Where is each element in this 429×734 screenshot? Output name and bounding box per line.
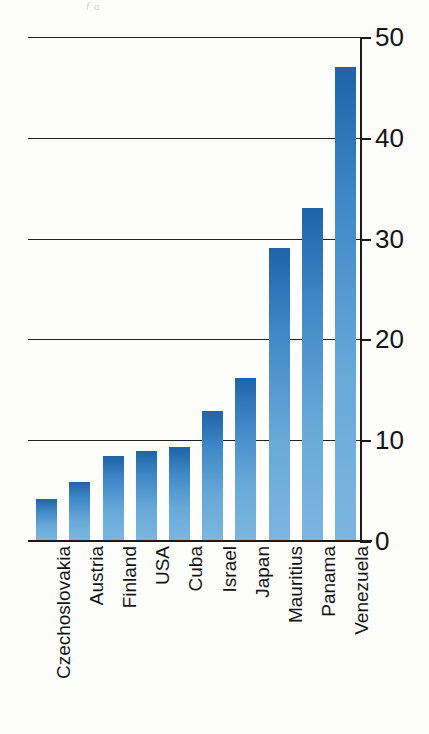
y-tick-mark-30 xyxy=(360,239,371,241)
x-axis-label-panama: Panama xyxy=(319,546,338,617)
bar-czechoslovakia xyxy=(36,499,57,541)
x-axis-label-venezuela: Venezuela xyxy=(352,546,371,635)
plot-area xyxy=(28,37,360,541)
scan-artifact-text: f g xyxy=(86,0,216,10)
x-axis-baseline xyxy=(28,540,372,542)
x-axis-label-usa: USA xyxy=(153,546,172,585)
x-axis-label-finland: Finland xyxy=(120,546,139,608)
x-axis-label-israel: Israel xyxy=(220,546,239,592)
bar-venezuela xyxy=(335,67,356,541)
bar-finland xyxy=(103,456,124,541)
y-tick-label-10: 10 xyxy=(375,427,404,453)
bar-austria xyxy=(69,482,90,541)
y-tick-mark-10 xyxy=(360,440,371,442)
y-tick-label-50: 50 xyxy=(375,24,404,50)
bar-cuba xyxy=(169,447,190,541)
y-tick-mark-40 xyxy=(360,138,371,140)
x-axis-labels: CzechoslovakiaAustriaFinlandUSACubaIsrae… xyxy=(28,546,360,726)
bars-layer xyxy=(28,37,360,541)
y-axis-line xyxy=(360,37,362,542)
x-axis-label-japan: Japan xyxy=(253,546,272,598)
bar-usa xyxy=(136,451,157,541)
x-axis-label-czechoslovakia: Czechoslovakia xyxy=(54,546,73,679)
y-tick-label-40: 40 xyxy=(375,125,404,151)
bar-israel xyxy=(202,411,223,541)
y-tick-mark-20 xyxy=(360,339,371,341)
x-axis-label-austria: Austria xyxy=(87,546,106,605)
y-tick-label-0: 0 xyxy=(375,528,389,554)
bar-panama xyxy=(302,208,323,541)
y-tick-mark-50 xyxy=(360,37,371,39)
y-tick-label-30: 30 xyxy=(375,226,404,252)
bar-mauritius xyxy=(269,248,290,541)
y-tick-label-20: 20 xyxy=(375,326,404,352)
bar-chart: f g 01020304050 CzechoslovakiaAustriaFin… xyxy=(0,0,429,734)
y-tick-mark-0 xyxy=(360,541,371,543)
x-axis-label-mauritius: Mauritius xyxy=(286,546,305,623)
bar-japan xyxy=(235,378,256,541)
x-axis-label-cuba: Cuba xyxy=(186,546,205,591)
